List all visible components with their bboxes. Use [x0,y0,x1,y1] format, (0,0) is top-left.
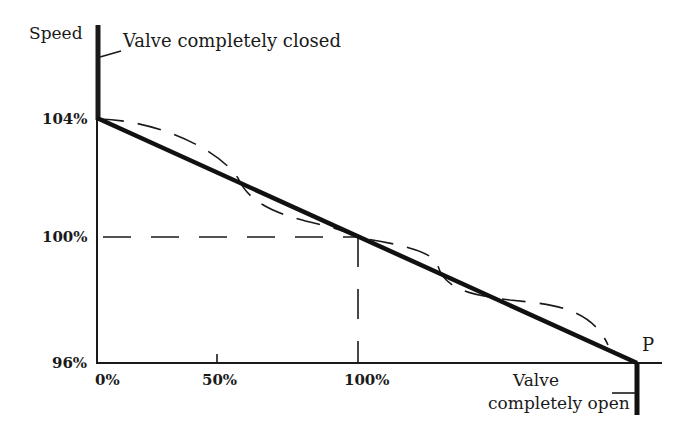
x-tick-50: 50% [202,371,237,389]
annotation-valve-open-line1: Valve [513,370,559,390]
closed-leader-line [100,51,121,57]
annotation-valve-closed: Valve completely closed [123,30,341,51]
point-p-label: P [642,334,654,355]
droop-line [97,118,637,363]
y-tick-96: 96% [52,354,87,372]
y-axis-label: Speed [29,23,83,43]
y-tick-100: 100% [42,228,88,246]
annotation-valve-open-line2: completely open [488,393,630,413]
x-tick-100: 100% [344,371,390,389]
x-tick-0: 0% [95,371,120,389]
y-tick-104: 104% [42,110,88,128]
